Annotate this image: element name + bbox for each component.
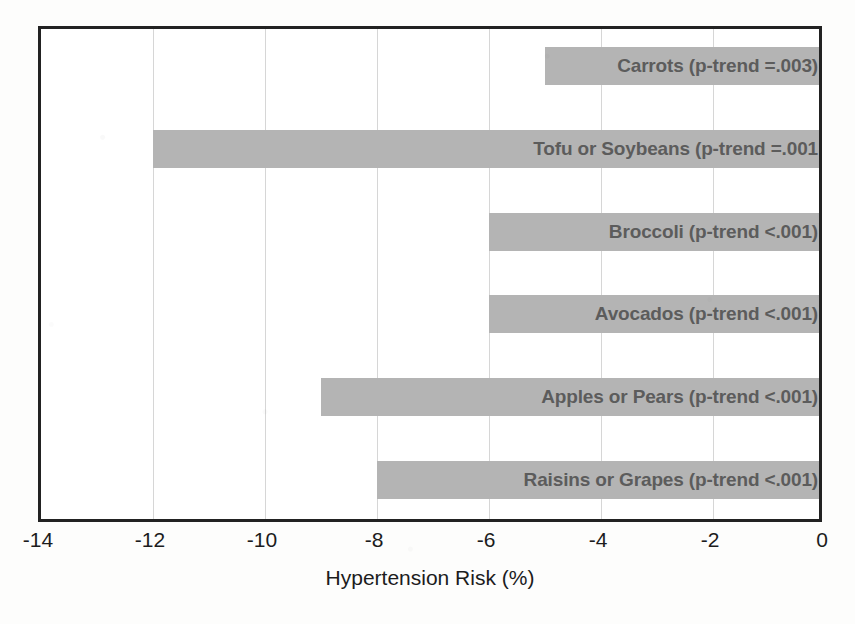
bar-label: Raisins or Grapes (p-trend <.001)	[524, 469, 819, 491]
x-tick-label: -2	[701, 528, 720, 552]
bar-label: Apples or Pears (p-trend <.001)	[541, 386, 819, 408]
bar-label: Avocados (p-trend <.001)	[595, 303, 819, 325]
bar-label: Tofu or Soybeans (p-trend =.001	[533, 138, 819, 160]
bar[interactable]: Avocados (p-trend <.001)	[489, 295, 819, 333]
bar-row: Raisins or Grapes (p-trend <.001)	[41, 461, 819, 499]
bar[interactable]: Carrots (p-trend =.003)	[545, 47, 819, 85]
x-axis-title: Hypertension Risk (%)	[38, 566, 822, 590]
bar-label: Carrots (p-trend =.003)	[617, 55, 819, 77]
x-tick-label: -8	[365, 528, 384, 552]
x-axis-tick-labels: -14-12-10-8-6-4-20	[38, 528, 822, 558]
plot-area: Carrots (p-trend =.003)Tofu or Soybeans …	[38, 26, 822, 522]
hypertension-risk-bar-chart: Carrots (p-trend =.003)Tofu or Soybeans …	[0, 0, 855, 624]
bar[interactable]: Tofu or Soybeans (p-trend =.001	[153, 130, 819, 168]
bar[interactable]: Broccoli (p-trend <.001)	[489, 213, 819, 251]
bar-row: Broccoli (p-trend <.001)	[41, 213, 819, 251]
bar[interactable]: Raisins or Grapes (p-trend <.001)	[377, 461, 819, 499]
bar[interactable]: Apples or Pears (p-trend <.001)	[321, 378, 819, 416]
x-tick-label: -12	[135, 528, 165, 552]
bar-row: Avocados (p-trend <.001)	[41, 295, 819, 333]
x-tick-label: 0	[816, 528, 828, 552]
bars-layer: Carrots (p-trend =.003)Tofu or Soybeans …	[41, 29, 819, 519]
x-tick-label: -14	[23, 528, 53, 552]
x-tick-label: -10	[247, 528, 277, 552]
x-tick-label: -6	[477, 528, 496, 552]
bar-row: Tofu or Soybeans (p-trend =.001	[41, 130, 819, 168]
x-tick-label: -4	[589, 528, 608, 552]
bar-row: Carrots (p-trend =.003)	[41, 47, 819, 85]
bar-row: Apples or Pears (p-trend <.001)	[41, 378, 819, 416]
bar-label: Broccoli (p-trend <.001)	[609, 221, 819, 243]
